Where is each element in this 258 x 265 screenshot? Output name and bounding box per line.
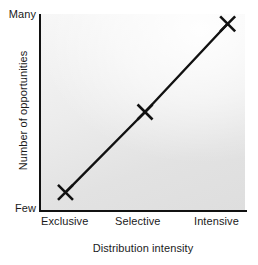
trend-line xyxy=(65,24,227,193)
y-axis-min-label: Few xyxy=(0,203,36,214)
x-tick-label-intensive: Intensive xyxy=(194,216,239,227)
data-series-layer xyxy=(41,14,245,210)
data-point-marker xyxy=(138,105,153,120)
x-tick-label-selective: Selective xyxy=(115,216,161,227)
y-axis-title: Number of opportunities xyxy=(18,36,29,186)
x-tick-label-exclusive: Exclusive xyxy=(41,216,88,227)
data-point-marker xyxy=(220,16,235,31)
data-point-marker xyxy=(58,185,73,200)
chart-figure: Many Few Number of opportunities Exclusi… xyxy=(0,0,258,265)
x-axis-line xyxy=(39,210,247,212)
y-axis-max-label: Many xyxy=(0,9,36,20)
x-axis-title: Distribution intensity xyxy=(41,243,245,254)
